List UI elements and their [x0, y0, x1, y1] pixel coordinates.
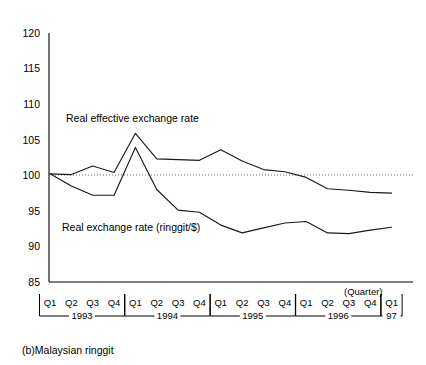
- x-tick-label-quarter-2: Q3: [83, 297, 103, 308]
- y-tick-label-95: 95: [14, 206, 40, 217]
- series-line-real-effective-exchange-rate: [50, 133, 392, 193]
- x-tick-label-quarter-7: Q4: [189, 297, 209, 308]
- x-tick-label-quarter-3: Q4: [104, 297, 124, 308]
- series-label-real-exchange-rate: Real exchange rate (ringgit/$): [62, 221, 200, 233]
- y-tick-label-100: 100: [14, 170, 40, 181]
- series-label-real-effective-exchange-rate: Real effective exchange rate: [66, 112, 199, 124]
- x-axis-year-label-1993: 1993: [60, 310, 104, 321]
- x-tick-label-quarter-12: Q1: [296, 297, 316, 308]
- x-tick-label-quarter-15: Q4: [360, 297, 380, 308]
- x-axis-year-label-1994: 1994: [145, 310, 189, 321]
- x-tick-label-quarter-4: Q1: [125, 297, 145, 308]
- x-tick-label-quarter-14: Q3: [339, 297, 359, 308]
- x-tick-label-quarter-8: Q1: [211, 297, 231, 308]
- x-tick-label-quarter-6: Q3: [168, 297, 188, 308]
- x-axis-year-label-1996: 1996: [316, 310, 360, 321]
- x-tick-label-quarter-16: Q1: [382, 297, 402, 308]
- y-tick-label-85: 85: [14, 277, 40, 288]
- x-tick-label-quarter-1: Q2: [61, 297, 81, 308]
- x-axis-unit-note: (Quarter): [344, 286, 383, 297]
- figure-caption: (b)Malaysian ringgit: [22, 344, 114, 356]
- x-axis-year-label-1995: 1995: [231, 310, 275, 321]
- x-tick-label-quarter-9: Q2: [232, 297, 252, 308]
- x-tick-label-quarter-11: Q4: [275, 297, 295, 308]
- y-tick-label-115: 115: [14, 63, 40, 74]
- x-tick-label-quarter-13: Q2: [318, 297, 338, 308]
- y-tick-label-90: 90: [14, 241, 40, 252]
- x-tick-label-quarter-0: Q1: [40, 297, 60, 308]
- y-tick-label-110: 110: [14, 99, 40, 110]
- x-tick-label-quarter-10: Q3: [254, 297, 274, 308]
- x-axis-year-label-97: 97: [370, 310, 414, 321]
- figure-panel: 120 115 110 105 100 95 90 85 Real effect…: [0, 0, 426, 365]
- y-tick-label-105: 105: [14, 135, 40, 146]
- y-tick-label-120: 120: [14, 28, 40, 39]
- x-tick-label-quarter-5: Q2: [147, 297, 167, 308]
